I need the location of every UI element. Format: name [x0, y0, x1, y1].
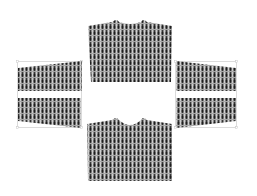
back-body-piece[interactable] — [88, 20, 172, 82]
left-bbox-handle-bl[interactable] — [17, 127, 19, 129]
left-sleeve-lower-piece[interactable] — [18, 98, 81, 128]
right-bbox-handle-tr[interactable] — [236, 61, 238, 63]
front-body-piece[interactable] — [87, 118, 172, 181]
left-bbox-handle-tl[interactable] — [17, 61, 19, 63]
pattern-layout-svg — [0, 0, 257, 196]
right-sleeve-lower-piece[interactable] — [176, 98, 236, 128]
right-bbox-handle-br[interactable] — [236, 127, 238, 129]
pattern-layout-canvas — [0, 0, 257, 196]
right-sleeve-upper-piece[interactable] — [176, 61, 236, 91]
left-sleeve-upper-piece[interactable] — [18, 61, 82, 91]
